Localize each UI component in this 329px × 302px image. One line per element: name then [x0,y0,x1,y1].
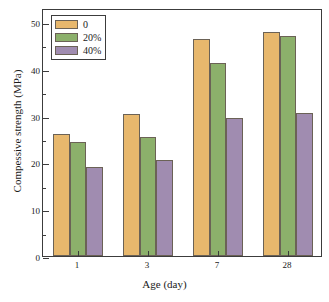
bar [53,134,70,256]
legend-item: 40% [55,44,101,57]
legend-item: 20% [55,31,101,44]
y-tick-label: 10 [31,207,40,216]
x-tick-mark [78,251,79,256]
x-tick-label: 28 [283,261,292,270]
bar [210,63,227,256]
bar [156,160,173,256]
legend-swatch [55,20,78,29]
chart-legend: 020%40% [51,15,106,60]
plot-area: 01020304050 020%40% [42,9,322,257]
y-tick-label: 40 [31,66,40,75]
y-tick-mark [43,258,49,259]
bar [193,39,210,256]
bar [140,137,157,256]
bar [70,142,87,256]
legend-swatch [55,46,78,55]
y-tick-label: 30 [31,113,40,122]
legend-label: 0 [83,20,88,30]
y-tick-label: 50 [31,20,40,29]
y-tick-label: 20 [31,160,40,169]
bar [263,32,280,256]
x-tick-mark [218,251,219,256]
legend-label: 20% [83,33,101,43]
legend-swatch [55,33,78,42]
x-tick-label: 7 [215,261,220,270]
legend-label: 40% [83,46,101,56]
x-tick-mark [148,251,149,256]
bar [226,118,243,256]
bar [296,113,313,256]
x-axis-title: Age (day) [0,278,329,290]
x-tick-label: 3 [145,261,150,270]
chart-figure: 01020304050 020%40% 13728 Age (day) Comp… [0,0,329,302]
bar [123,114,140,256]
x-tick-mark [288,251,289,256]
x-tick-label: 1 [75,261,80,270]
y-axis-title: Compessive strength (MPa) [11,51,23,211]
legend-item: 0 [55,18,101,31]
bar [86,167,103,256]
bar [280,36,297,256]
y-tick-label: 0 [36,254,41,263]
